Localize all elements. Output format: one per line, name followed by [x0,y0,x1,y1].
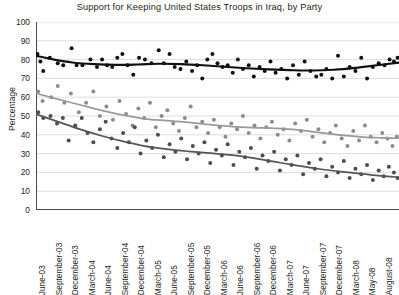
data-point [297,73,301,77]
x-tick-label-4: June-04 [105,265,113,295]
y-tick-label-50: 50 [21,112,30,120]
y-tick-label-40: 40 [21,131,30,139]
data-point [160,114,164,118]
data-point [120,52,124,56]
data-point [365,163,369,167]
data-point [41,99,45,103]
data-point [143,58,147,62]
x-tick-label-15: March-07 [287,260,295,295]
data-point [276,133,280,137]
data-point [70,46,74,50]
data-point [200,76,204,80]
data-point [136,106,140,110]
data-point [319,73,323,77]
data-point [67,138,71,142]
data-point [144,138,148,142]
data-point [77,110,81,114]
x-axis-tick-labels: June-03September-03December-03March-04Ju… [36,212,399,295]
data-point [148,101,152,105]
data-point [56,84,60,88]
data-point [392,170,396,174]
x-tick-label-2: December-03 [72,245,80,295]
data-point [380,131,384,135]
data-point [212,118,216,122]
data-point [38,59,42,63]
data-point [340,137,344,141]
data-point [237,150,241,154]
data-point [185,157,189,161]
data-point [270,120,274,124]
data-point [61,63,65,67]
y-tick-label-30: 30 [21,149,30,157]
data-point [359,56,363,60]
data-point [342,159,346,163]
data-point [131,73,135,77]
data-point [387,165,391,169]
data-point [173,65,177,69]
data-point [190,69,194,73]
data-point [49,114,53,118]
y-axis-tick-labels: 1009080706050403020100 [0,22,33,210]
data-point [189,105,193,109]
data-point [98,114,102,118]
y-tick-label-70: 70 [21,74,30,82]
data-point [363,123,367,127]
data-point [388,58,392,62]
data-point [137,56,141,60]
data-point [336,54,340,58]
data-point [210,52,214,56]
data-point [91,140,95,144]
x-tick-label-3: March-04 [89,260,97,295]
data-point [111,118,115,122]
data-point [184,59,188,63]
data-point [351,129,355,133]
data-point [139,152,143,156]
data-point [133,125,137,129]
x-tick-label-18: December-07 [336,245,344,295]
data-point [272,150,276,154]
data-point [252,75,256,79]
data-point [121,131,125,135]
x-tick-label-11: March-06 [221,260,229,295]
data-point [345,144,349,148]
data-point [396,56,399,60]
plot-area [36,22,399,210]
data-point [274,71,278,75]
data-point [314,75,318,79]
data-point [353,69,357,73]
plot-svg [36,22,399,210]
data-point [229,122,233,126]
y-tick-label-90: 90 [21,37,30,45]
data-point [98,127,102,131]
data-point [249,146,253,150]
x-tick-label-9: September-05 [188,243,196,295]
data-point [104,120,108,124]
data-point [258,137,262,141]
x-tick-label-12: June-06 [237,265,245,295]
data-point [231,163,235,167]
data-point [226,142,230,146]
data-point [247,131,251,135]
data-point [330,165,334,169]
data-point [56,61,60,65]
chart-title: Support for Keeping United States Troops… [0,0,399,14]
data-point [115,146,119,150]
x-tick-label-19: March-08 [353,260,361,295]
data-point [202,140,206,144]
series-democrats [36,110,399,182]
data-point [154,125,158,129]
data-point [295,153,299,157]
chart-container: Support for Keeping United States Troops… [0,0,399,295]
series-republicans [36,46,399,80]
x-tick-label-5: September-04 [122,243,130,295]
data-point [178,67,182,71]
data-point [115,56,119,60]
x-tick-label-16: June-07 [303,265,311,295]
data-point [284,157,288,161]
data-point [231,71,235,75]
y-tick-label-20: 20 [21,168,30,176]
x-tick-label-8: June-05 [171,265,179,295]
data-point [348,176,352,180]
data-point [353,167,357,171]
data-point [165,108,169,112]
